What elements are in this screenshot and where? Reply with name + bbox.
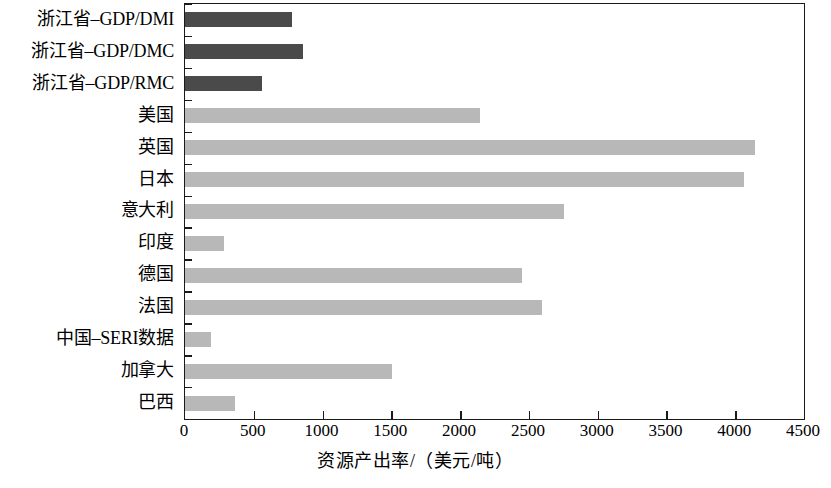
y-axis-tick — [185, 259, 192, 260]
bar-row — [185, 132, 804, 164]
y-axis-label-cell: 印度 — [0, 226, 180, 258]
y-axis-tick — [185, 355, 192, 356]
y-axis-label: 中国–SERI数据 — [56, 329, 174, 347]
bar — [185, 268, 522, 283]
y-axis-tick — [185, 36, 192, 37]
x-axis-tick — [391, 411, 392, 419]
bar — [185, 12, 292, 27]
y-axis-label-cell: 英国 — [0, 131, 180, 163]
y-axis-label: 浙江省–GDP/RMC — [32, 74, 174, 92]
x-axis-tick — [529, 411, 530, 419]
y-axis-tick — [185, 164, 192, 165]
y-axis-tick — [185, 196, 192, 197]
x-axis-tick-label: 3000 — [580, 422, 614, 439]
bar-row — [185, 355, 804, 387]
x-axis-tick-labels: 050010001500200025003000350040004500 — [184, 422, 803, 446]
x-axis-title: 资源产出率/（美元/吨） — [0, 452, 831, 470]
x-axis-tick-label: 2500 — [511, 422, 545, 439]
y-axis-tick-edge — [185, 4, 192, 5]
y-axis-tick — [185, 323, 192, 324]
x-axis-tick-label: 3500 — [648, 422, 682, 439]
y-axis-label-cell: 意大利 — [0, 195, 180, 227]
bar — [185, 236, 224, 251]
bars-layer — [185, 4, 804, 419]
y-axis-label-cell: 德国 — [0, 258, 180, 290]
y-axis-label: 美国 — [138, 106, 174, 124]
y-axis-tick — [185, 132, 192, 133]
x-axis-tick — [735, 411, 736, 419]
plot-area — [184, 3, 805, 420]
bar-chart: 浙江省–GDP/DMI浙江省–GDP/DMC浙江省–GDP/RMC美国英国日本意… — [0, 0, 831, 488]
y-axis-label-cell: 法国 — [0, 290, 180, 322]
x-axis-tick-label: 4500 — [786, 422, 820, 439]
bar — [185, 332, 211, 347]
bar — [185, 140, 755, 155]
x-axis-tick — [666, 411, 667, 419]
x-axis-tick-label: 1500 — [373, 422, 407, 439]
y-axis-label: 日本 — [138, 170, 174, 188]
bar-row — [185, 4, 804, 36]
bar — [185, 108, 480, 123]
bar — [185, 172, 744, 187]
bar — [185, 364, 392, 379]
bar-row — [185, 68, 804, 100]
y-axis-label-cell: 浙江省–GDP/DMC — [0, 35, 180, 67]
y-axis-tick — [185, 100, 192, 101]
y-axis-label: 印度 — [138, 233, 174, 251]
y-axis-label-cell: 巴西 — [0, 386, 180, 418]
bar-row — [185, 387, 804, 419]
bar-row — [185, 100, 804, 132]
y-axis-tick — [185, 227, 192, 228]
y-axis-label: 加拿大 — [121, 361, 174, 379]
bar-row — [185, 164, 804, 196]
y-axis-label: 法国 — [138, 297, 174, 315]
y-axis-label: 意大利 — [121, 201, 174, 219]
bar — [185, 76, 262, 91]
x-axis-tick — [460, 411, 461, 419]
x-axis-tick-label: 2000 — [442, 422, 476, 439]
bar-row — [185, 323, 804, 355]
y-axis-label: 浙江省–GDP/DMC — [31, 42, 174, 60]
y-axis-label-cell: 中国–SERI数据 — [0, 322, 180, 354]
x-axis-tick-label: 0 — [180, 422, 189, 439]
x-axis-tick — [323, 411, 324, 419]
x-axis-tick — [598, 411, 599, 419]
y-axis-labels: 浙江省–GDP/DMI浙江省–GDP/DMC浙江省–GDP/RMC美国英国日本意… — [0, 3, 180, 418]
bar-row — [185, 36, 804, 68]
y-axis-tick — [185, 387, 192, 388]
bar-row — [185, 291, 804, 323]
bar — [185, 300, 542, 315]
bar-row — [185, 196, 804, 228]
y-axis-tick — [185, 291, 192, 292]
y-axis-label: 英国 — [138, 138, 174, 156]
y-axis-label-cell: 浙江省–GDP/DMI — [0, 3, 180, 35]
y-axis-label-cell: 浙江省–GDP/RMC — [0, 67, 180, 99]
y-axis-label-cell: 美国 — [0, 99, 180, 131]
y-axis-label: 浙江省–GDP/DMI — [37, 10, 174, 28]
x-axis-tick — [254, 411, 255, 419]
bar-row — [185, 259, 804, 291]
bar — [185, 396, 235, 411]
y-axis-label: 巴西 — [138, 393, 174, 411]
y-axis-label-cell: 日本 — [0, 163, 180, 195]
bar — [185, 204, 564, 219]
bar-row — [185, 227, 804, 259]
x-axis-tick-label: 4000 — [717, 422, 751, 439]
y-axis-tick — [185, 68, 192, 69]
y-axis-label-cell: 加拿大 — [0, 354, 180, 386]
y-axis-label: 德国 — [138, 265, 174, 283]
x-axis-tick-label: 500 — [240, 422, 266, 439]
x-axis-tick-label: 1000 — [305, 422, 339, 439]
bar — [185, 44, 303, 59]
